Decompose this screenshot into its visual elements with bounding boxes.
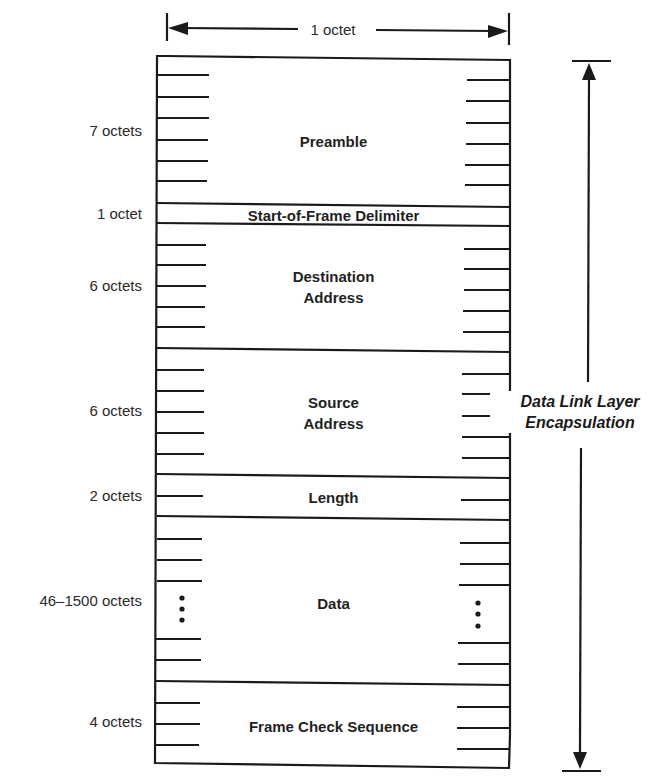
field-destination-label-line1: Destination (157, 266, 510, 287)
field-preamble-label: Preamble (157, 131, 510, 152)
field-sfd-label: Start-of-Frame Delimiter (157, 205, 510, 226)
field-length: Length (157, 487, 510, 508)
field-frame-check-sequence: Frame Check Sequence (157, 716, 510, 737)
size-label-source: 6 octets (89, 402, 142, 419)
size-label-sfd: 1 octet (97, 205, 142, 222)
field-data-label: Data (157, 593, 510, 614)
field-source-address: Source Address (157, 392, 510, 434)
arrow-down-icon (573, 752, 587, 769)
field-destination-address: Destination Address (157, 266, 510, 308)
encapsulation-label-line1: Data Link Layer (490, 391, 666, 412)
field-fcs-label: Frame Check Sequence (157, 716, 510, 737)
octet-width-label: 1 octet (0, 21, 666, 38)
field-data: Data (157, 593, 510, 614)
encapsulation-label: Data Link Layer Encapsulation (490, 391, 666, 433)
field-length-label: Length (157, 487, 510, 508)
field-start-of-frame-delimiter: Start-of-Frame Delimiter (157, 205, 510, 226)
size-label-preamble: 7 octets (89, 122, 142, 139)
size-label-length: 2 octets (89, 487, 142, 504)
size-label-data: 46–1500 octets (39, 592, 142, 609)
field-preamble: Preamble (157, 131, 510, 152)
size-label-fcs: 4 octets (89, 713, 142, 730)
field-destination-label-line2: Address (157, 287, 510, 308)
field-source-label-line2: Address (157, 413, 510, 434)
encapsulation-label-line2: Encapsulation (490, 412, 666, 433)
size-label-destination: 6 octets (89, 277, 142, 294)
arrow-up-icon (582, 63, 596, 80)
field-source-label-line1: Source (157, 392, 510, 413)
